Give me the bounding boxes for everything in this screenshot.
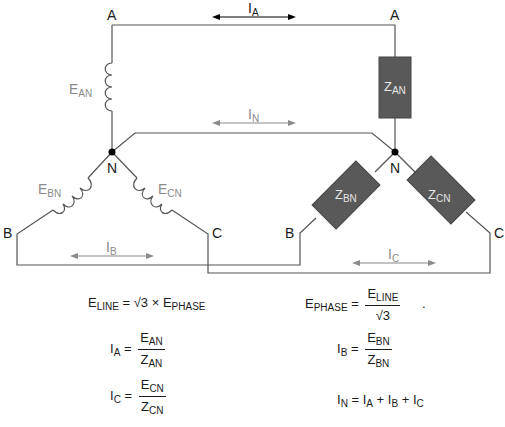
label-source-c: C	[212, 226, 222, 240]
label-load-a: A	[390, 8, 399, 22]
label-source-n: N	[107, 161, 117, 175]
label-zbn: ZBN	[335, 188, 357, 204]
label-ecn: ECN	[158, 182, 182, 199]
label-load-b: B	[285, 226, 294, 240]
label-ic: IC	[388, 247, 399, 264]
equation-ic: IC = ECNZCN	[110, 378, 166, 416]
label-ia: IA	[248, 1, 259, 18]
label-in: IN	[248, 107, 259, 124]
node-source-n	[109, 149, 116, 156]
label-zan: ZAN	[384, 80, 406, 96]
label-zcn: ZCN	[428, 188, 450, 204]
equation-ephase: EPHASE = ELINE√3 .	[305, 287, 426, 322]
label-source-a: A	[107, 8, 116, 22]
equation-ia: IA = EANZAN	[110, 331, 165, 369]
label-load-n: N	[390, 161, 400, 175]
label-load-c: C	[494, 226, 504, 240]
label-ean: EAN	[69, 82, 92, 99]
wire-neutral	[112, 133, 395, 152]
circuit-diagram	[0, 0, 505, 427]
winding-ean-icon	[105, 63, 112, 111]
wire-source-b-leg	[17, 152, 316, 265]
equation-eline: ELINE = √3 × EPHASE	[88, 296, 206, 312]
label-source-b: B	[3, 226, 12, 240]
equation-in: IN = IA + IB + IC	[337, 393, 424, 409]
label-ebn: EBN	[38, 182, 61, 199]
node-load-n	[392, 149, 399, 156]
label-ib: IB	[106, 240, 117, 257]
equation-ib: IB = EBNZBN	[337, 331, 392, 369]
fraction-ephase: ELINE√3	[365, 287, 400, 322]
